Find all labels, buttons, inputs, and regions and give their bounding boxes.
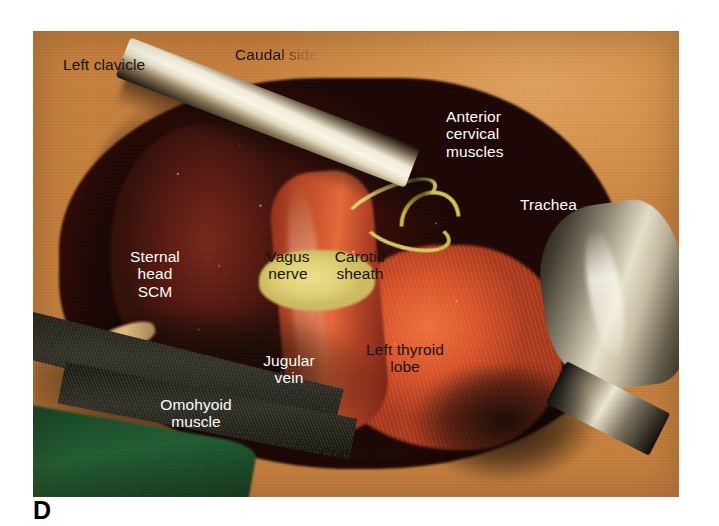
cranial-margin-shadow <box>408 367 602 488</box>
figure-panel: Left clavicleCaudal sideAnterior cervica… <box>0 0 719 526</box>
panel-letter: D <box>33 497 51 523</box>
surgical-photograph: Left clavicleCaudal sideAnterior cervica… <box>33 31 679 497</box>
